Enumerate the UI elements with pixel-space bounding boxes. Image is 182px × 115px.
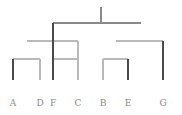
merge-link-layer bbox=[13, 23, 163, 80]
dendrogram-figure: ADFCBEG bbox=[0, 0, 182, 115]
leaf-label-d: D bbox=[33, 99, 47, 108]
leaf-label-a: A bbox=[6, 99, 20, 108]
leaf-label-b: B bbox=[96, 99, 110, 108]
leaf-label-c: C bbox=[71, 99, 85, 108]
dendrogram-canvas bbox=[0, 0, 182, 115]
leaf-label-e: E bbox=[121, 99, 135, 108]
leaf-stem-layer bbox=[13, 23, 163, 80]
leaf-label-f: F bbox=[46, 99, 60, 108]
leaf-label-g: G bbox=[156, 99, 170, 108]
